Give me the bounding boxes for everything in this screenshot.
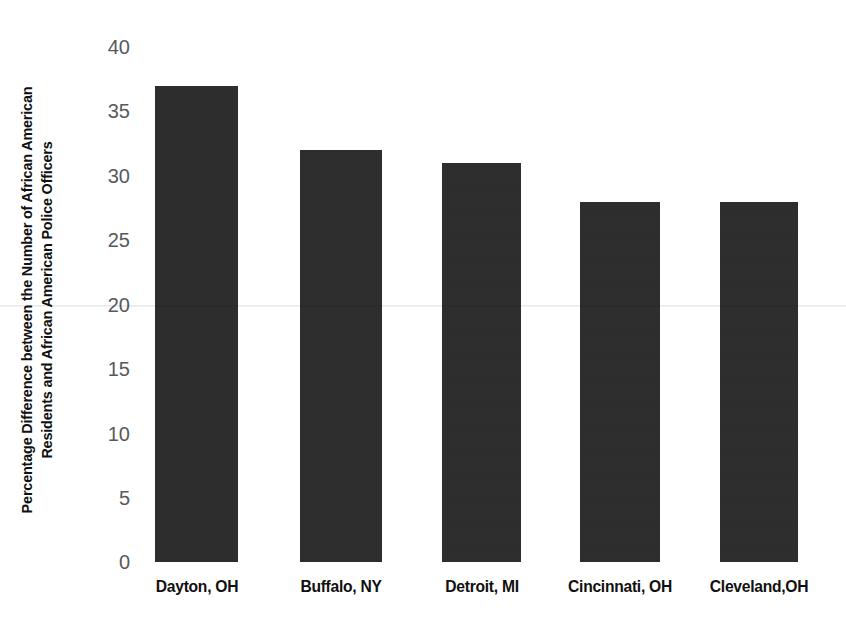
y-axis-tick-labels: 40 35 30 25 20 15 10 5 0: [74, 0, 130, 627]
y-tick-15: 15: [82, 359, 130, 379]
bar-cleveland-oh: [720, 202, 798, 563]
y-tick-5: 5: [82, 488, 130, 508]
scan-artifact-line-secondary: [0, 306, 846, 307]
bar-chart-figure: Percentage Difference between the Number…: [0, 0, 846, 627]
y-tick-0: 0: [82, 552, 130, 572]
y-axis-title-line-2: Residents and African American Police Of…: [37, 87, 57, 514]
bar-dayton-oh: [155, 86, 238, 562]
y-axis-title-line-1: Percentage Difference between the Number…: [17, 87, 37, 514]
y-tick-25: 25: [82, 230, 130, 250]
y-tick-40: 40: [82, 37, 130, 57]
bar-cincinnati-oh: [580, 202, 660, 563]
y-tick-35: 35: [82, 101, 130, 121]
x-tick-label-cleveland-oh: Cleveland,OH: [676, 576, 842, 598]
bar-detroit-mi: [442, 163, 521, 562]
bar-buffalo-ny: [300, 150, 382, 562]
y-tick-10: 10: [82, 424, 130, 444]
plot-area: Dayton, OH Buffalo, NY Detroit, MI Cinci…: [140, 0, 840, 627]
y-tick-30: 30: [82, 166, 130, 186]
y-axis-title: Percentage Difference between the Number…: [0, 0, 74, 600]
y-axis-title-rotated: Percentage Difference between the Number…: [17, 71, 57, 530]
x-tick-label-dayton-oh: Dayton, OH: [114, 576, 280, 598]
